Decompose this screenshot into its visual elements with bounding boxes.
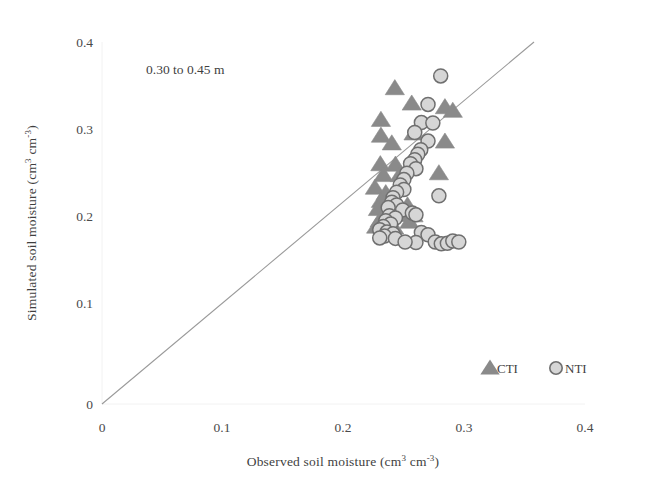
nti-circle-icon: [550, 362, 562, 374]
data-point-nti: [408, 126, 422, 140]
x-axis-title-suffix: ): [435, 454, 440, 469]
x-tick-label-0.4: 0.4: [577, 420, 594, 435]
data-point-nti: [409, 208, 423, 222]
scatter-figure: 0.4 0.3 0.2 0.1 0 0 0.1 0.2 0.3 0.4 Obse…: [0, 0, 668, 498]
y-tick-label-0.1: 0.1: [76, 296, 93, 311]
data-point-nti: [434, 69, 448, 83]
y-tick-label-0: 0: [86, 397, 93, 412]
data-point-nti: [398, 235, 412, 249]
legend: CTI NTI: [480, 359, 586, 376]
depth-annotation: 0.30 to 0.45 m: [146, 62, 225, 77]
one-to-one-reference-line: [102, 42, 534, 404]
y-axis-title-prefix: Simulated soil moisture (cm: [24, 163, 39, 321]
legend-entry-cti[interactable]: CTI: [480, 359, 518, 376]
x-tick-label-0: 0: [99, 420, 106, 435]
y-tick-label-0.3: 0.3: [76, 122, 93, 137]
data-point-cti: [435, 133, 454, 148]
data-point-nti: [373, 231, 387, 245]
y-axis-title-suffix: ): [24, 125, 39, 130]
data-point-cti: [429, 165, 448, 180]
data-point-cti: [371, 156, 390, 171]
data-point-cti: [402, 95, 421, 110]
y-tick-label-0.2: 0.2: [76, 209, 93, 224]
data-point-nti: [426, 116, 440, 130]
data-point-cti: [371, 127, 390, 142]
x-tick-label-0.3: 0.3: [456, 420, 473, 435]
plot-svg: 0.4 0.3 0.2 0.1 0 0 0.1 0.2 0.3 0.4 Obse…: [0, 0, 668, 498]
x-tick-label-0.2: 0.2: [335, 420, 352, 435]
data-point-nti: [421, 97, 435, 111]
legend-label-cti: CTI: [497, 361, 518, 376]
data-markers-group: [365, 69, 466, 251]
x-axis-title-prefix: Observed soil moisture (cm: [247, 454, 402, 469]
y-axis-title-mid: cm: [24, 137, 39, 158]
y-tick-label-0.4: 0.4: [76, 35, 93, 50]
x-tick-label-0.1: 0.1: [214, 420, 231, 435]
data-point-cti: [385, 80, 404, 95]
x-axis-title: Observed soil moisture (cm3 cm-3): [247, 453, 440, 469]
y-axis-title: Simulated soil moisture (cm3 cm-3): [23, 125, 39, 321]
series-nti: [373, 69, 466, 251]
data-point-nti: [452, 235, 466, 249]
x-axis-title-mid: cm: [406, 454, 427, 469]
data-point-nti: [432, 189, 446, 203]
legend-label-nti: NTI: [565, 361, 587, 376]
legend-entry-nti[interactable]: NTI: [550, 361, 587, 376]
data-point-cti: [371, 111, 390, 126]
